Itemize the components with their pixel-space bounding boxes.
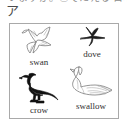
figure-item-dove: dove xyxy=(66,26,118,59)
white-swan-icon xyxy=(65,62,117,101)
figure-item-swan: swan xyxy=(12,26,66,67)
cut-off-header-strip: いますか。②でたえる 日本 xyxy=(0,0,127,5)
figure-item-swallow: swallow xyxy=(64,62,118,111)
figure-item-swan-label: swan xyxy=(12,57,66,67)
flying-dark-bird-silhouette-icon xyxy=(77,26,107,48)
figure-item-crow-label: crow xyxy=(12,105,66,115)
figure-item-dove-label: dove xyxy=(66,49,118,59)
figure-item-swallow-label: swallow xyxy=(64,101,118,111)
figure-item-crow: crow xyxy=(12,67,66,115)
cut-off-header-text: いますか。②でたえる 日本 xyxy=(8,0,127,4)
black-crow-icon xyxy=(17,67,61,105)
flying-white-bird-icon xyxy=(16,26,62,57)
section-marker-label: ア xyxy=(6,4,19,18)
bird-figure-box: swan dove xyxy=(9,23,119,119)
